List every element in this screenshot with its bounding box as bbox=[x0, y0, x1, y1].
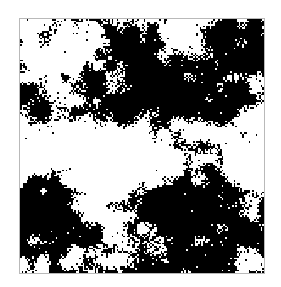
figure-root bbox=[0, 0, 281, 287]
lattice-heatmap-canvas bbox=[20, 19, 264, 273]
lattice-panel bbox=[19, 18, 265, 274]
